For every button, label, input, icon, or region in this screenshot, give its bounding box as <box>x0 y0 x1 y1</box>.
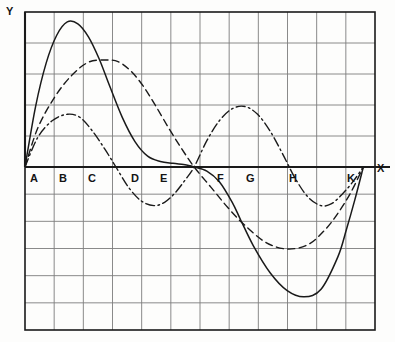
x-axis-point-label-k: K <box>347 173 355 184</box>
y-axis-label: Y <box>6 6 13 17</box>
x-axis-label: X <box>377 163 384 174</box>
chart-canvas <box>0 0 395 342</box>
x-axis-point-label-d: D <box>131 173 139 184</box>
x-axis-point-label-e: E <box>160 173 168 184</box>
figure-container: ABCDEFGHK Y X <box>0 0 395 342</box>
x-axis-point-label-h: H <box>289 173 297 184</box>
x-axis-point-label-b: B <box>59 173 67 184</box>
x-axis-point-label-f: F <box>217 173 224 184</box>
x-axis-point-label-a: A <box>30 173 38 184</box>
x-axis-point-label-c: C <box>88 173 96 184</box>
x-axis-point-label-g: G <box>246 173 255 184</box>
